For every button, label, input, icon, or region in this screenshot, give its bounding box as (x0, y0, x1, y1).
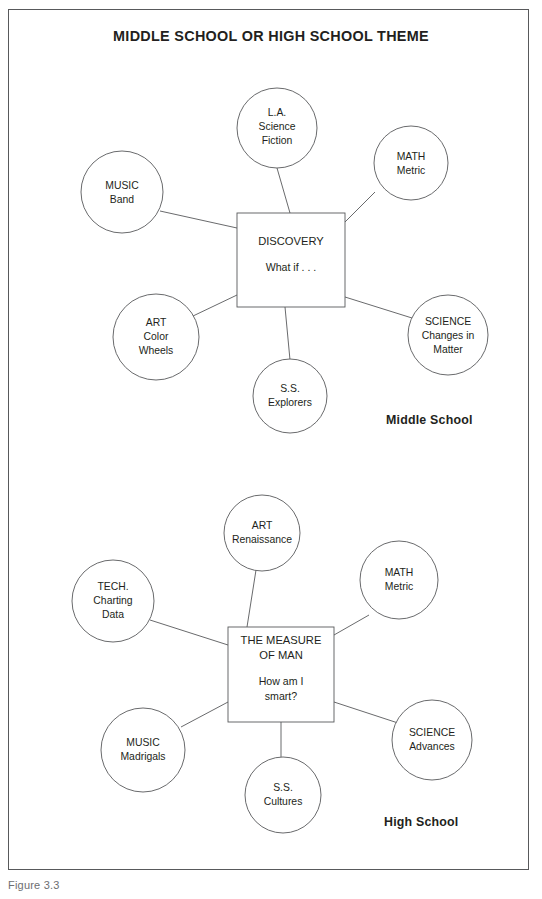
node-circle[interactable] (392, 700, 472, 780)
page-root: MIDDLE SCHOOL OR HIGH SCHOOL THEME DISCO… (0, 0, 542, 899)
node-science-middle-school[interactable]: SCIENCE Changes in Matter (408, 295, 488, 375)
connector-math (345, 192, 375, 222)
node-subject: L.A. (268, 107, 286, 118)
connector-music (160, 211, 237, 228)
center-subheading-line1-high-school: How am I (259, 675, 304, 687)
node-ss-high-school[interactable]: S.S. Cultures (245, 757, 321, 833)
center-heading-line1-high-school: THE MEASURE (241, 634, 322, 646)
node-detail-line1: Renaissance (232, 534, 292, 545)
node-detail-line1: Cultures (264, 796, 303, 807)
node-subject: MATH (397, 151, 426, 162)
connector-math (334, 615, 369, 635)
node-subject: MUSIC (126, 737, 160, 748)
connector-ss (285, 307, 290, 360)
connector-music (181, 702, 228, 727)
diagram-middle-school: DISCOVERY What if . . . L.A. Science Fic… (81, 88, 488, 433)
node-ss-middle-school[interactable]: S.S. Explorers (253, 359, 327, 433)
node-detail-line1: Color (144, 331, 169, 342)
node-tech-high-school[interactable]: TECH. Charting Data (72, 560, 154, 642)
node-detail-line1: Band (110, 194, 134, 205)
node-music-high-school[interactable]: MUSIC Madrigals (101, 708, 185, 792)
node-science-high-school[interactable]: SCIENCE Advances (392, 700, 472, 780)
node-detail-line1: Madrigals (120, 751, 165, 762)
center-subheading-middle-school: What if . . . (266, 261, 317, 273)
node-detail-line1: Explorers (268, 397, 312, 408)
center-subheading-line2-high-school: smart? (265, 690, 297, 702)
connector-science (345, 297, 412, 318)
connector-science (334, 702, 398, 723)
node-detail-line2: Wheels (139, 345, 174, 356)
node-subject: MUSIC (105, 180, 139, 191)
node-math-high-school[interactable]: MATH Metric (360, 541, 438, 619)
node-circle[interactable] (360, 541, 438, 619)
node-circle[interactable] (224, 495, 300, 571)
node-subject: SCIENCE (425, 316, 471, 327)
connector-art (193, 295, 237, 316)
node-circle[interactable] (245, 757, 321, 833)
center-box-middle-school[interactable] (237, 213, 345, 307)
node-detail-line1: Changes in (422, 330, 475, 341)
node-subject: MATH (385, 567, 414, 578)
node-detail-line2: Data (102, 609, 124, 620)
diagram-high-school: THE MEASURE OF MAN How am I smart? ART R… (72, 495, 472, 833)
node-subject: SCIENCE (409, 727, 455, 738)
node-circle[interactable] (253, 359, 327, 433)
theme-web-diagrams: DISCOVERY What if . . . L.A. Science Fic… (0, 0, 542, 899)
node-subject: ART (146, 317, 167, 328)
node-subject: S.S. (273, 782, 293, 793)
node-detail-line1: Metric (397, 165, 425, 176)
node-math-middle-school[interactable]: MATH Metric (374, 126, 448, 200)
node-detail-line1: Advances (409, 741, 455, 752)
node-detail-line1: Metric (385, 581, 413, 592)
node-art-high-school[interactable]: ART Renaissance (224, 495, 300, 571)
connector-tech (150, 620, 228, 645)
node-detail-line1: Charting (93, 595, 132, 606)
level-label-middle-school: Middle School (386, 413, 473, 427)
node-subject: TECH. (97, 581, 128, 592)
node-subject: ART (252, 520, 273, 531)
node-circle[interactable] (374, 126, 448, 200)
center-heading-line2-high-school: OF MAN (259, 649, 303, 661)
level-label-high-school: High School (384, 815, 458, 829)
node-circle[interactable] (101, 708, 185, 792)
node-detail-line1: Science (259, 121, 296, 132)
connector-la (277, 168, 290, 213)
center-heading-middle-school: DISCOVERY (258, 235, 324, 247)
connector-art (247, 570, 256, 627)
node-circle[interactable] (81, 151, 163, 233)
node-la-middle-school[interactable]: L.A. Science Fiction (237, 88, 317, 168)
node-detail-line2: Fiction (262, 135, 293, 146)
node-music-middle-school[interactable]: MUSIC Band (81, 151, 163, 233)
node-art-middle-school[interactable]: ART Color Wheels (113, 294, 199, 380)
node-detail-line2: Matter (433, 344, 463, 355)
node-subject: S.S. (280, 383, 300, 394)
figure-caption: Figure 3.3 (8, 879, 60, 891)
